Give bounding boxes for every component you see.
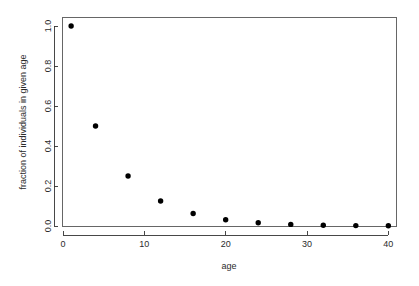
data-point — [353, 223, 358, 228]
data-point — [223, 217, 228, 222]
data-point — [256, 220, 261, 225]
y-tick-label: 0.4 — [43, 140, 53, 153]
data-point — [190, 211, 195, 216]
plot-canvas: 010203040 0.00.20.40.60.81.0 age fractio… — [0, 0, 419, 286]
x-tick-label: 40 — [383, 239, 393, 249]
y-tick-label: 0.8 — [43, 60, 53, 73]
data-point — [93, 123, 98, 128]
y-axis-title: fraction of individuals in given age — [18, 54, 28, 189]
data-point — [68, 23, 73, 28]
data-point — [288, 222, 293, 227]
data-point — [321, 223, 326, 228]
x-tick-label: 10 — [139, 239, 149, 249]
y-tick-label: 1.0 — [43, 20, 53, 33]
x-tick-label: 20 — [221, 239, 231, 249]
y-tick-label: 0.2 — [43, 180, 53, 193]
data-point — [158, 198, 163, 203]
x-axis-title: age — [221, 261, 236, 271]
data-point — [386, 223, 391, 228]
y-tick-label: 0.0 — [43, 220, 53, 233]
x-tick-label: 0 — [60, 239, 65, 249]
data-point — [125, 173, 130, 178]
x-tick-label: 30 — [302, 239, 312, 249]
y-tick-label: 0.6 — [43, 100, 53, 113]
scatter-plot-figure: 010203040 0.00.20.40.60.81.0 age fractio… — [0, 0, 419, 286]
